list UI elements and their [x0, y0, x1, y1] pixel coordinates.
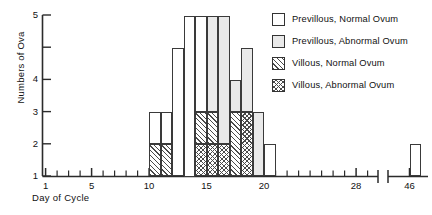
legend-swatch-villous-normal [272, 57, 285, 70]
legend-label-previllous-abnormal: Previllous, Abnormal Ovum [292, 36, 408, 46]
bar-segment-villous-abnormal [195, 144, 207, 176]
legend-label-villous-abnormal: Villous, Abnormal Ovum [292, 80, 394, 90]
legend-label-villous-normal: Villous, Normal Ovum [292, 58, 385, 68]
legend-item-previllous-abnormal: Previllous, Abnormal Ovum [272, 30, 430, 52]
bar-segment-previllous-abnormal [241, 48, 253, 112]
histogram-figure: 1 2 3 4 5 1 5 10 15 20 28 46 Numbers of … [0, 0, 432, 215]
bar-segment-previllous-normal [195, 16, 207, 113]
bar-segment-previllous-abnormal [218, 16, 230, 145]
legend-item-previllous-normal: Previllous, Normal Ovum [272, 8, 430, 30]
legend-swatch-previllous-normal [272, 13, 285, 26]
bar-segment-previllous-abnormal [230, 80, 242, 112]
bar-segment-previllous-normal [149, 112, 161, 144]
bar-segment-villous-normal [230, 112, 242, 176]
bar-segment-villous-abnormal [241, 112, 253, 176]
bar-segment-previllous-normal [410, 144, 422, 176]
legend-item-villous-abnormal: Villous, Abnormal Ovum [272, 74, 430, 96]
bar-segment-villous-normal [195, 112, 207, 144]
bar-segment-villous-abnormal [218, 144, 230, 176]
chart-legend: Previllous, Normal Ovum Previllous, Abno… [272, 8, 430, 96]
legend-label-previllous-normal: Previllous, Normal Ovum [292, 14, 398, 24]
bar-segment-previllous-abnormal [207, 16, 219, 113]
legend-swatch-previllous-abnormal [272, 35, 285, 48]
bar-segment-villous-abnormal [207, 144, 219, 176]
bar-segment-villous-normal [207, 112, 219, 144]
bar-segment-villous-normal [161, 144, 173, 176]
legend-swatch-villous-abnormal [272, 79, 285, 92]
bar-segment-previllous-normal [264, 144, 276, 176]
bar-segment-previllous-normal [172, 48, 184, 177]
bar-segment-previllous-abnormal [253, 112, 265, 176]
bar-segment-previllous-normal [161, 112, 173, 144]
legend-item-villous-normal: Villous, Normal Ovum [272, 52, 430, 74]
bar-segment-villous-normal [149, 144, 161, 176]
bar-segment-previllous-normal [184, 16, 196, 177]
